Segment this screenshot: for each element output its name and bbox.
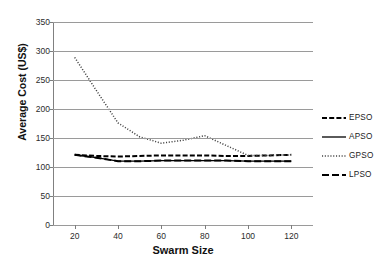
x-axis-tick-label: 100: [231, 231, 265, 241]
x-axis-tick-label: 40: [101, 231, 135, 241]
gridline: [53, 196, 313, 197]
x-axis-tick: [291, 225, 292, 229]
y-axis-tick: [49, 196, 53, 197]
legend-swatch-icon: [322, 170, 346, 180]
x-axis-tick-label: 60: [144, 231, 178, 241]
gridline: [53, 225, 313, 226]
legend-swatch-icon: [322, 132, 346, 142]
series-line-gpso: [75, 57, 292, 155]
gridline: [53, 22, 313, 23]
gridline: [53, 51, 313, 52]
legend-item-lpso[interactable]: LPSO: [322, 165, 384, 184]
x-axis-tick: [248, 225, 249, 229]
series-line-epso: [75, 155, 292, 157]
x-axis-tick-label: 80: [188, 231, 222, 241]
x-axis-tick: [118, 225, 119, 229]
legend: EPSOAPSOGPSOLPSO: [322, 108, 384, 184]
x-axis-tick-label: 120: [274, 231, 308, 241]
line-chart: Average Cost (US$) 050100150200250300350…: [0, 0, 387, 266]
gridline: [53, 167, 313, 168]
y-axis-tick: [49, 109, 53, 110]
gridline: [53, 138, 313, 139]
x-axis-tick-label: 20: [58, 231, 92, 241]
x-axis-tick: [205, 225, 206, 229]
legend-item-apso[interactable]: APSO: [322, 127, 384, 146]
y-axis-tick: [49, 80, 53, 81]
gridline: [53, 109, 313, 110]
y-axis-tick: [49, 22, 53, 23]
legend-label: APSO: [346, 132, 373, 141]
x-axis-tick: [75, 225, 76, 229]
x-axis-tick: [161, 225, 162, 229]
x-axis-title: Swarm Size: [53, 244, 313, 256]
y-axis-tick: [49, 138, 53, 139]
y-axis-tick: [49, 51, 53, 52]
y-axis-tick: [49, 225, 53, 226]
legend-item-epso[interactable]: EPSO: [322, 108, 384, 127]
legend-label: LPSO: [346, 170, 372, 179]
legend-item-gpso[interactable]: GPSO: [322, 146, 384, 165]
y-axis-tick: [49, 167, 53, 168]
legend-swatch-icon: [322, 113, 346, 123]
gridline: [53, 80, 313, 81]
legend-swatch-icon: [322, 151, 346, 161]
legend-label: GPSO: [346, 151, 373, 160]
legend-label: EPSO: [346, 113, 373, 122]
